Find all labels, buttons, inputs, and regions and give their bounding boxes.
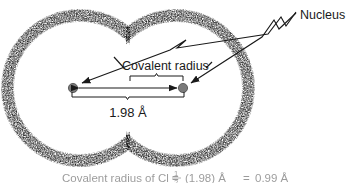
covalent-radius-figure: Nucleus Covalent radius 1.98 Å Covalent … bbox=[0, 0, 346, 183]
caption-result: 0.99 Å bbox=[255, 172, 289, 183]
caption-equals: = bbox=[243, 172, 250, 183]
bond-distance-label: 1.98 Å bbox=[109, 105, 147, 120]
covalent-radius-bracket bbox=[130, 74, 183, 82]
covalent-radius-label: Covalent radius bbox=[122, 59, 209, 73]
caption-lead: Covalent radius of Cl = bbox=[62, 172, 179, 183]
figure-caption: Covalent radius of Cl = 1 2 (1.98) Å = 0… bbox=[62, 169, 289, 183]
caption-value-expression: (1.98) Å bbox=[185, 172, 226, 183]
bond-distance-bracket bbox=[72, 92, 184, 100]
caption-fraction-denominator: 2 bbox=[174, 178, 178, 183]
diagram-canvas: Nucleus Covalent radius 1.98 Å Covalent … bbox=[0, 0, 346, 183]
nucleus-dot-right bbox=[178, 83, 187, 92]
caption-fraction-numerator: 1 bbox=[174, 169, 178, 178]
nucleus-label: Nucleus bbox=[300, 8, 345, 22]
nucleus-dot-left bbox=[68, 83, 77, 92]
